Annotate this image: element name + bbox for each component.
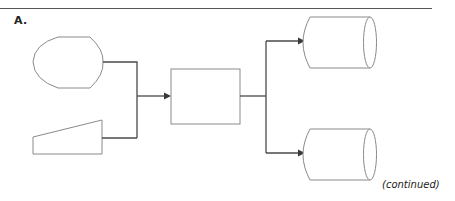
storage-bottom-body xyxy=(303,129,370,180)
arrowhead-to-process xyxy=(164,93,171,100)
connector-display-to-junction xyxy=(103,62,137,138)
storage-cylinder-top xyxy=(303,17,377,68)
display-shape xyxy=(33,37,103,88)
continued-label: (continued) xyxy=(382,179,440,190)
storage-top-body xyxy=(303,17,370,68)
flowchart-diagram xyxy=(0,0,455,201)
storage-cylinder-bottom xyxy=(303,129,377,180)
storage-bottom-end-ellipse xyxy=(364,129,377,180)
storage-top-end-ellipse xyxy=(364,17,377,68)
process-rectangle xyxy=(171,69,240,124)
manual-input-shape xyxy=(33,120,102,154)
